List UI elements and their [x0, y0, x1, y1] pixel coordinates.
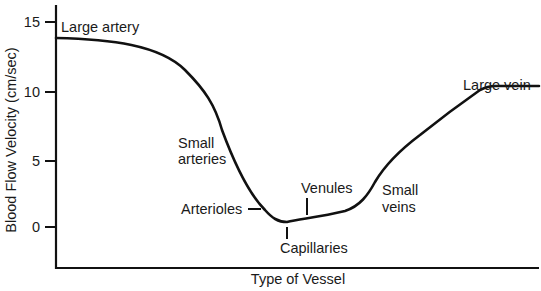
chart: 15 10 5 0 Blood Flow Velocity (cm/sec) T…	[0, 0, 541, 291]
label-large-artery: Large artery	[61, 19, 140, 35]
label-arterioles: Arterioles	[181, 201, 242, 217]
label-large-vein: Large vein	[463, 77, 531, 93]
y-tick-label-0: 0	[32, 219, 40, 235]
y-tick-label-5: 5	[32, 153, 40, 169]
velocity-curve	[56, 38, 539, 222]
y-tick-label-10: 10	[24, 84, 40, 100]
label-small-veins-line2: veins	[382, 199, 416, 215]
y-tick-label-15: 15	[24, 14, 40, 30]
x-axis-label: Type of Vessel	[251, 271, 345, 287]
label-small-arteries-line1: Small	[178, 135, 214, 151]
axes	[45, 5, 539, 269]
label-venules: Venules	[301, 180, 353, 196]
label-small-arteries-line2: arteries	[178, 151, 226, 167]
label-small-veins-line1: Small	[382, 182, 418, 198]
y-axis-label: Blood Flow Velocity (cm/sec)	[3, 47, 19, 232]
label-capillaries: Capillaries	[280, 240, 348, 256]
